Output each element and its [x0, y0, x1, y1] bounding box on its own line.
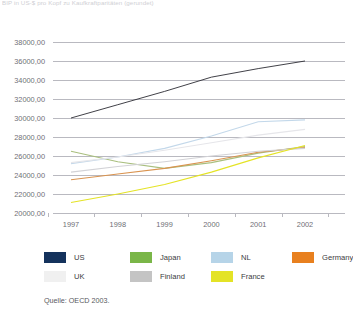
gridline	[57, 213, 345, 214]
chart-legend: USJapanNLGermanyUKFinlandFrance	[44, 248, 349, 286]
y-axis-label: 32000,00	[0, 95, 45, 104]
series-lines	[57, 42, 345, 213]
x-axis-tick	[282, 213, 283, 217]
x-axis-tick	[235, 213, 236, 217]
y-axis-label: 24000,00	[0, 171, 45, 180]
series-line-nl	[71, 120, 305, 164]
y-axis-label: 34000,00	[0, 76, 45, 85]
series-line-us	[71, 61, 305, 118]
x-axis-label: 2001	[238, 220, 278, 229]
legend-row: UKFinlandFrance	[44, 267, 349, 286]
legend-label: Germany	[322, 253, 353, 262]
chart-title: BIP in US-$ pro Kopf zu Kaufkraftparität…	[2, 0, 154, 7]
x-axis-label: 2002	[285, 220, 325, 229]
plot-area: 38000,0036000,0034000,0032000,0030000,00…	[57, 42, 345, 213]
legend-label: Finland	[160, 272, 185, 281]
legend-item-finland[interactable]: Finland	[130, 271, 185, 282]
source-note: Quelle: OECD 2003.	[44, 296, 110, 305]
chart-figure: BIP in US-$ pro Kopf zu Kaufkraftparität…	[0, 0, 353, 315]
y-axis-label: 26000,00	[0, 152, 45, 161]
legend-item-nl[interactable]: NL	[211, 252, 251, 263]
x-axis-tick	[141, 213, 142, 217]
legend-swatch-uk	[44, 271, 66, 282]
legend-swatch-us	[44, 252, 66, 263]
x-axis-label: 1998	[98, 220, 138, 229]
series-line-germany	[71, 147, 305, 179]
y-axis-tick	[53, 213, 57, 214]
legend-swatch-france	[211, 271, 233, 282]
y-axis-label: 30000,00	[0, 114, 45, 123]
legend-label: UK	[74, 272, 85, 281]
y-axis-label: 20000,00	[0, 209, 45, 218]
legend-label: US	[74, 253, 85, 262]
legend-swatch-finland	[130, 271, 152, 282]
x-axis-tick	[48, 213, 49, 217]
legend-row: USJapanNLGermany	[44, 248, 349, 267]
x-axis-label: 1999	[145, 220, 185, 229]
x-axis-label: 2000	[191, 220, 231, 229]
legend-item-uk[interactable]: UK	[44, 271, 85, 282]
legend-swatch-nl	[211, 252, 233, 263]
series-line-france	[71, 146, 305, 203]
y-axis-label: 28000,00	[0, 133, 45, 142]
legend-label: Japan	[160, 253, 181, 262]
legend-swatch-germany	[292, 252, 314, 263]
series-line-uk	[71, 129, 305, 162]
legend-item-france[interactable]: France	[211, 271, 265, 282]
legend-item-us[interactable]: US	[44, 252, 85, 263]
y-axis-label: 36000,00	[0, 57, 45, 66]
x-axis-tick	[94, 213, 95, 217]
legend-swatch-japan	[130, 252, 152, 263]
legend-label: NL	[241, 253, 251, 262]
x-axis-label: 1997	[51, 220, 91, 229]
y-axis-label: 22000,00	[0, 190, 45, 199]
legend-item-germany[interactable]: Germany	[292, 252, 353, 263]
x-axis-tick	[188, 213, 189, 217]
legend-label: France	[241, 272, 265, 281]
legend-item-japan[interactable]: Japan	[130, 252, 181, 263]
y-axis-label: 38000,00	[0, 38, 45, 47]
x-axis-tick	[328, 213, 329, 217]
